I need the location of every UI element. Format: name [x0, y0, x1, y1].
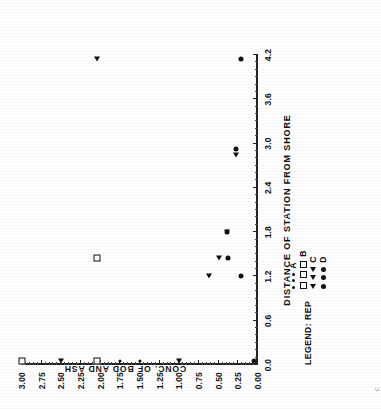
x-tick-label: 3.6: [263, 93, 273, 105]
data-point-c: [216, 255, 222, 260]
legend-symbols: [300, 261, 307, 289]
y-tick-label: 2.00: [96, 372, 106, 389]
data-point-d: [226, 255, 231, 260]
legend-label-a: A: [288, 262, 298, 269]
x-tick: [253, 187, 258, 188]
x-tick-minor: [255, 172, 258, 173]
x-tick: [253, 54, 258, 55]
figure-rotated-wrapper: 0.00.61.21.82.43.03.64.20.000.250.500.75…: [0, 0, 381, 409]
y-tick: [257, 360, 258, 365]
x-tick-minor: [255, 305, 258, 306]
y-tick-label: 1.00: [174, 372, 184, 389]
x-tick-minor: [255, 253, 258, 254]
legend-marker-c: [310, 267, 316, 272]
scanned-figure-page: 0.00.61.21.82.43.03.64.20.000.250.500.75…: [0, 0, 381, 409]
x-tick-minor: [255, 113, 258, 114]
y-tick-label: 0.00: [253, 372, 263, 389]
x-tick-label: 2.4: [263, 182, 273, 194]
legend-group-a: A: [288, 250, 298, 289]
data-point-d: [252, 359, 257, 364]
y-axis-title: CONC. OF BOD AND ASH: [7, 364, 243, 374]
x-tick-minor: [255, 342, 258, 343]
data-point-b: [93, 254, 100, 261]
legend-marker-a: [292, 279, 295, 282]
x-axis-title: DISTANCE OF STATION FROM SHORE: [282, 55, 292, 365]
legend-marker-a: [292, 273, 295, 276]
x-tick-label: 3.0: [263, 137, 273, 149]
x-tick-minor: [255, 76, 258, 77]
x-tick-minor: [255, 283, 258, 284]
x-tick-minor: [255, 91, 258, 92]
x-tick-minor: [255, 290, 258, 291]
legend-group-b: B: [298, 250, 308, 289]
x-tick-minor: [255, 312, 258, 313]
y-tick-label: 1.50: [135, 372, 145, 389]
scatter-plot-area: 0.00.61.21.82.43.03.64.20.000.250.500.75…: [22, 55, 258, 365]
legend-label-c: C: [308, 256, 318, 263]
x-tick-minor: [255, 120, 258, 121]
data-point-d: [238, 274, 243, 279]
x-tick: [253, 98, 258, 99]
x-tick-minor: [255, 157, 258, 158]
x-tick-minor: [255, 239, 258, 240]
x-tick-minor: [255, 165, 258, 166]
legend-marker-b: [300, 282, 307, 289]
data-point-d: [238, 56, 243, 61]
x-tick-minor: [255, 224, 258, 225]
legend-marker-d: [321, 275, 326, 280]
x-tick-label: 1.2: [263, 270, 273, 282]
x-tick-minor: [255, 202, 258, 203]
legend-marker-b: [300, 261, 307, 268]
legend-marker-d: [321, 267, 326, 272]
data-point-c: [94, 56, 100, 61]
legend-marker-c: [310, 284, 316, 289]
legend-label-b: B: [298, 250, 308, 257]
data-point-c: [206, 274, 212, 279]
x-tick-minor: [255, 216, 258, 217]
x-tick: [253, 320, 258, 321]
x-tick: [253, 275, 258, 276]
legend-marker-d: [321, 284, 326, 289]
x-tick-minor: [255, 61, 258, 62]
x-tick-label: 0.6: [263, 315, 273, 327]
legend-marker-c: [310, 275, 316, 280]
y-tick-minor: [245, 362, 246, 365]
legend-groups: ABCD: [288, 230, 328, 289]
x-tick-minor: [255, 349, 258, 350]
scan-stray-mark: c: [372, 387, 381, 391]
y-tick-label: 2.75: [37, 372, 47, 389]
x-tick-label: 4.2: [263, 49, 273, 61]
x-tick-label: 0.0: [263, 359, 273, 371]
y-tick-label: 0.75: [194, 372, 204, 389]
legend-symbols: [321, 267, 326, 289]
x-tick-minor: [255, 261, 258, 262]
x-axis-line: [256, 55, 258, 365]
x-tick-minor: [255, 84, 258, 85]
y-tick-label: 0.25: [233, 372, 243, 389]
x-tick-minor: [255, 357, 258, 358]
x-tick-minor: [255, 268, 258, 269]
x-tick-minor: [255, 69, 258, 70]
legend-title: LEGEND: REP: [303, 301, 313, 365]
y-tick-label: 1.25: [155, 372, 165, 389]
x-tick-minor: [255, 179, 258, 180]
legend-label-d: D: [318, 256, 328, 263]
y-tick-label: 1.75: [115, 372, 125, 389]
x-tick-minor: [255, 150, 258, 151]
legend-marker-b: [300, 271, 307, 278]
y-tick-label: 2.50: [56, 372, 66, 389]
y-tick-minor: [249, 362, 250, 365]
x-tick-minor: [255, 246, 258, 247]
legend-symbols: [292, 273, 295, 289]
legend-group-c: C: [308, 250, 318, 289]
x-tick-minor: [255, 298, 258, 299]
x-tick: [253, 231, 258, 232]
x-tick-minor: [255, 128, 258, 129]
y-tick-label: 3.00: [17, 372, 27, 389]
data-point-c: [233, 152, 239, 157]
x-tick: [253, 143, 258, 144]
x-tick-minor: [255, 135, 258, 136]
legend-marker-a: [292, 286, 295, 289]
x-tick-minor: [255, 106, 258, 107]
data-point-d: [233, 147, 238, 152]
